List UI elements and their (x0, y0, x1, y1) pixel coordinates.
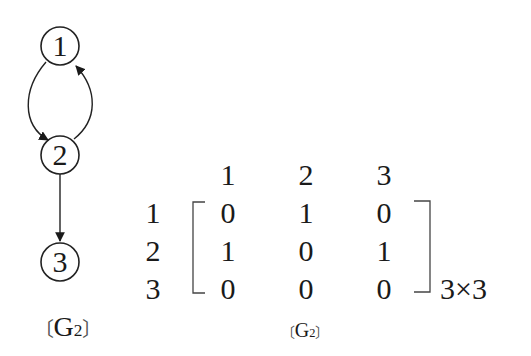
matrix-col-header-2: 2 (299, 160, 314, 190)
matrix-cell-2-1: 1 (221, 236, 236, 266)
node-2-label: 2 (53, 140, 68, 170)
matrix-row-header-2: 2 (146, 236, 161, 266)
matrix-col-header-3: 3 (377, 160, 392, 190)
matrix-cell-2-3: 1 (377, 236, 392, 266)
caption-open-bracket: 〔 (34, 318, 54, 340)
matrix-row-header-1: 1 (146, 198, 161, 228)
caption-sub: 2 (74, 321, 83, 340)
matrix-cell-1-3: 0 (377, 198, 392, 228)
matrix-caption-close-bracket: 〕 (315, 325, 329, 340)
node-3-label: 3 (53, 247, 68, 277)
matrix-col-header-1: 1 (221, 160, 236, 190)
matrix-cell-1-1: 0 (221, 198, 236, 228)
caption-main: G (54, 311, 74, 342)
matrix-right-bracket (414, 201, 430, 292)
matrix-cell-2-2: 0 (299, 236, 314, 266)
node-1-label: 1 (53, 31, 68, 61)
matrix-caption-open-bracket: 〔 (281, 325, 295, 340)
adjacency-diagram: 1 2 3 〔G2〕 1 2 3 1 2 3 0 1 0 1 0 1 0 0 0… (0, 0, 531, 356)
matrix-caption-main: G (295, 319, 309, 341)
matrix-left-bracket (193, 202, 205, 293)
matrix-row-header-3: 3 (146, 274, 161, 304)
edge-1-to-2 (28, 62, 48, 140)
matrix-cell-3-1: 0 (221, 274, 236, 304)
caption-close-bracket: 〕 (82, 318, 102, 340)
matrix-caption: 〔G2〕 (281, 320, 330, 340)
matrix-cell-1-2: 1 (299, 198, 314, 228)
matrix-dimension: 3×3 (440, 274, 487, 304)
graph-caption: 〔G2〕 (34, 313, 103, 341)
matrix-cell-3-2: 0 (299, 274, 314, 304)
matrix-cell-3-3: 0 (377, 274, 392, 304)
edge-2-to-1 (74, 66, 92, 139)
